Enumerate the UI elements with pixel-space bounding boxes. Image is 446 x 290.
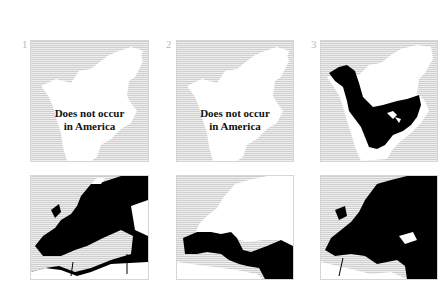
map-number-3: 3 (311, 38, 317, 50)
map-number-2: 2 (166, 38, 172, 50)
europe-range-map (31, 176, 148, 279)
europe-range-map (177, 176, 293, 279)
map-panel-6-europe (320, 175, 438, 280)
map-panel-1-america: Does not occur in America (30, 40, 149, 162)
map-panel-2-america: Does not occur in America (176, 40, 294, 162)
map-panel-5-europe (176, 175, 294, 280)
north-america-range-map (321, 41, 437, 161)
north-america-map (31, 41, 148, 161)
map-panel-3-america (320, 40, 438, 162)
no-occurrence-label: Does not occur in America (177, 107, 293, 133)
map-number-1: 1 (22, 38, 28, 50)
map-panel-4-europe (30, 175, 149, 280)
north-america-map (177, 41, 293, 161)
europe-range-map (321, 176, 437, 279)
no-occurrence-label: Does not occur in America (31, 107, 148, 133)
